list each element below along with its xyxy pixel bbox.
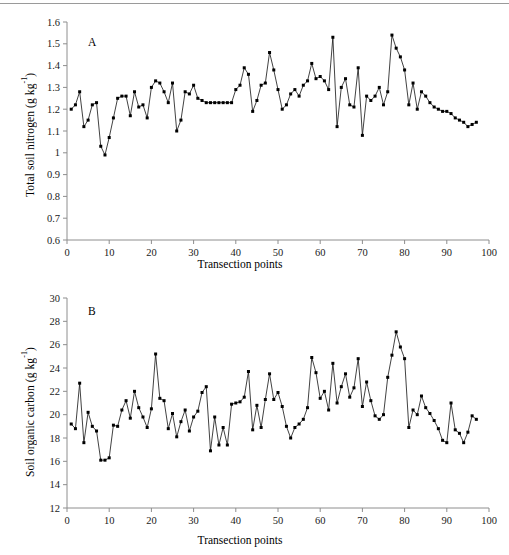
panel-a-y-axis-title-text: Total soil nitrogen (g kg bbox=[24, 84, 36, 198]
data-point bbox=[137, 106, 140, 109]
series-line bbox=[71, 35, 476, 155]
y-tick-label: 22 bbox=[50, 386, 61, 397]
data-point bbox=[154, 79, 157, 82]
data-point bbox=[336, 125, 339, 128]
data-point bbox=[209, 101, 212, 104]
data-point bbox=[428, 101, 431, 104]
data-point bbox=[302, 418, 305, 421]
panel-b-y-axis-title: Soil organic carbon (g kg-1) bbox=[20, 320, 36, 505]
panel-b-label: B bbox=[88, 305, 96, 317]
panel-b-soil-organic-carbon: 1214161820222426283001020304050607080901… bbox=[0, 286, 509, 551]
x-tick-label: 50 bbox=[273, 247, 284, 258]
data-point bbox=[201, 391, 204, 394]
data-point bbox=[285, 103, 288, 106]
panel-b-y-axis-title-exponent: -1 bbox=[20, 352, 29, 359]
data-point bbox=[302, 84, 305, 87]
data-point bbox=[243, 66, 246, 69]
y-tick-label: 1 bbox=[55, 147, 60, 158]
data-point bbox=[158, 82, 161, 85]
data-point bbox=[95, 430, 98, 433]
data-point bbox=[374, 95, 377, 98]
data-point bbox=[369, 99, 372, 102]
data-point bbox=[365, 381, 368, 384]
data-point bbox=[416, 108, 419, 111]
data-point bbox=[298, 423, 301, 426]
data-point bbox=[298, 95, 301, 98]
data-point bbox=[201, 99, 204, 102]
y-tick-label: 0.9 bbox=[47, 169, 60, 180]
data-point bbox=[327, 88, 330, 91]
data-point bbox=[407, 426, 410, 429]
data-point bbox=[163, 399, 166, 402]
x-tick-label: 50 bbox=[273, 515, 284, 526]
x-tick-label: 70 bbox=[357, 247, 368, 258]
series-line bbox=[71, 332, 476, 460]
data-point bbox=[205, 385, 208, 388]
data-point bbox=[78, 90, 81, 93]
data-point bbox=[314, 77, 317, 80]
data-point bbox=[154, 353, 157, 356]
y-tick-label: 1.3 bbox=[47, 82, 60, 93]
data-point bbox=[331, 36, 334, 39]
data-point bbox=[234, 88, 237, 91]
x-tick-label: 10 bbox=[104, 515, 115, 526]
x-tick-label: 90 bbox=[442, 515, 453, 526]
data-point bbox=[99, 145, 102, 148]
y-tick-label: 30 bbox=[50, 293, 61, 304]
data-point bbox=[348, 396, 351, 399]
data-point bbox=[441, 439, 444, 442]
data-point bbox=[424, 95, 427, 98]
panel-b-plot: 1214161820222426283001020304050607080901… bbox=[0, 286, 509, 551]
data-point bbox=[268, 372, 271, 375]
data-point bbox=[471, 123, 474, 126]
data-point bbox=[120, 409, 123, 412]
data-point bbox=[433, 419, 436, 422]
data-point bbox=[99, 459, 102, 462]
data-point bbox=[289, 92, 292, 95]
data-point bbox=[412, 82, 415, 85]
data-point bbox=[243, 396, 246, 399]
data-point bbox=[129, 417, 132, 420]
data-point bbox=[74, 103, 77, 106]
y-tick-label: 1.4 bbox=[47, 60, 61, 71]
data-point bbox=[175, 435, 178, 438]
x-tick-label: 70 bbox=[357, 515, 368, 526]
data-point bbox=[382, 413, 385, 416]
data-point bbox=[133, 390, 136, 393]
data-point bbox=[112, 424, 115, 427]
data-point bbox=[466, 125, 469, 128]
data-point bbox=[239, 84, 242, 87]
data-point bbox=[277, 88, 280, 91]
data-point bbox=[213, 101, 216, 104]
data-point bbox=[378, 86, 381, 89]
data-point bbox=[247, 370, 250, 373]
data-point bbox=[175, 130, 178, 133]
data-point bbox=[116, 425, 119, 428]
data-point bbox=[289, 437, 292, 440]
data-point bbox=[361, 405, 364, 408]
data-point bbox=[281, 108, 284, 111]
panel-a-y-axis-title: Total soil nitrogen (g kg-1) bbox=[20, 40, 36, 230]
data-point bbox=[454, 116, 457, 119]
data-point bbox=[222, 426, 225, 429]
data-point bbox=[386, 376, 389, 379]
series-markers bbox=[70, 34, 478, 157]
x-tick-label: 100 bbox=[481, 515, 497, 526]
panel-b-y-axis-title-tail: ) bbox=[24, 348, 36, 352]
data-point bbox=[196, 410, 199, 413]
data-point bbox=[357, 357, 360, 360]
data-point bbox=[277, 391, 280, 394]
y-tick-label: 20 bbox=[50, 409, 61, 420]
data-point bbox=[445, 441, 448, 444]
panel-a-y-axis-title-tail: ) bbox=[24, 73, 36, 77]
data-point bbox=[188, 92, 191, 95]
data-point bbox=[365, 95, 368, 98]
y-tick-label: 18 bbox=[50, 433, 61, 444]
data-point bbox=[213, 416, 216, 419]
data-point bbox=[184, 90, 187, 93]
x-tick-label: 100 bbox=[481, 247, 497, 258]
x-tick-label: 0 bbox=[64, 247, 69, 258]
data-point bbox=[462, 441, 465, 444]
data-point bbox=[146, 426, 149, 429]
data-point bbox=[437, 108, 440, 111]
